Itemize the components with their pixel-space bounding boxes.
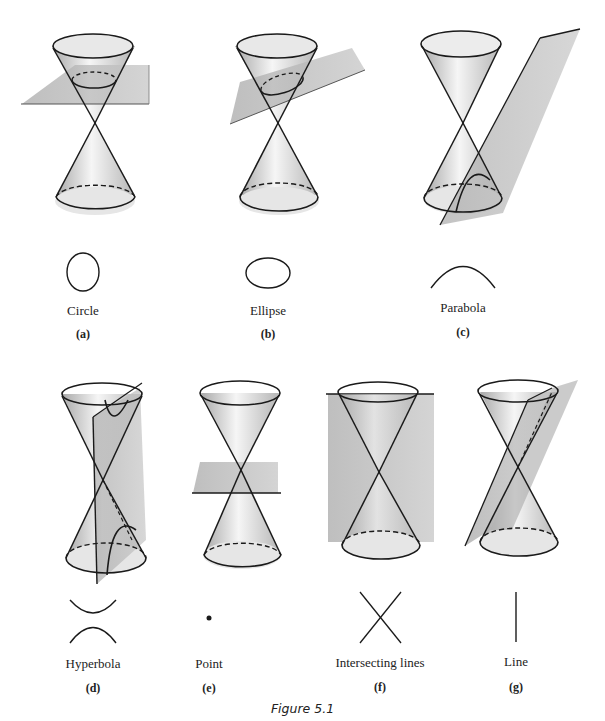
tag-a: (a) xyxy=(3,327,163,342)
panel-intersecting-lines: Intersecting lines (f) xyxy=(300,380,460,680)
label-parabola: Parabola xyxy=(383,300,543,316)
panel-line: Line (g) xyxy=(460,380,605,680)
panel-circle: Circle (a) xyxy=(0,0,200,340)
intersecting-lines-icon xyxy=(300,592,460,652)
label-ellipse: Ellipse xyxy=(188,303,348,319)
hyperbola-curve-icon xyxy=(0,596,160,656)
tag-c: (c) xyxy=(383,325,543,340)
double-cone-tangent-plane xyxy=(460,380,605,590)
tag-b: (b) xyxy=(188,327,348,342)
panel-parabola: Parabola (c) xyxy=(400,0,605,340)
label-line: Line xyxy=(436,654,596,670)
ellipse-curve-icon xyxy=(200,250,400,310)
line-icon xyxy=(460,592,605,652)
label-circle: Circle xyxy=(3,303,163,319)
tag-e: (e) xyxy=(129,681,289,696)
circle-curve-icon xyxy=(0,250,200,310)
double-cone-plane-through-vertex xyxy=(160,380,300,590)
double-cone-vertical-plane-through-axis xyxy=(300,380,460,590)
panel-ellipse: Ellipse (b) xyxy=(200,0,400,340)
panel-point: Point (e) xyxy=(160,380,300,680)
figure-caption: Figure 5.1 xyxy=(0,701,605,716)
point-icon xyxy=(160,596,300,656)
tag-g: (g) xyxy=(436,680,596,695)
double-cone-parallel-plane xyxy=(400,0,605,240)
double-cone-vertical-plane xyxy=(0,380,160,590)
label-point: Point xyxy=(129,656,289,672)
double-cone-tilted-plane xyxy=(200,0,400,240)
double-cone-horizontal-plane xyxy=(0,0,200,240)
panel-hyperbola: Hyperbola (d) xyxy=(0,380,160,680)
